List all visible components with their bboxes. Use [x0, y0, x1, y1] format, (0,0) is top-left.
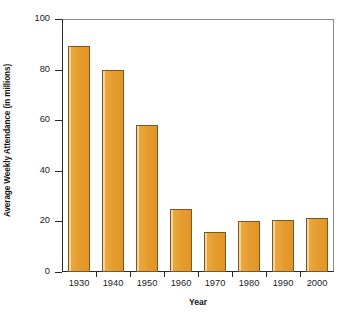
y-axis-tick	[55, 272, 62, 273]
bar	[102, 70, 124, 272]
x-axis-tick	[96, 272, 97, 277]
bar	[306, 218, 328, 272]
x-axis-tick-label: 2000	[297, 278, 337, 288]
y-axis-tick-label: 0	[20, 266, 50, 276]
bar	[170, 209, 192, 272]
y-axis-tick	[55, 120, 62, 121]
bar-chart-figure: Average Weekly Attendance (in millions) …	[0, 0, 349, 318]
x-axis-title: Year	[62, 297, 334, 307]
y-axis-tick-label: 60	[20, 114, 50, 124]
bar	[204, 232, 226, 272]
bar	[136, 125, 158, 272]
x-axis-tick	[266, 272, 267, 277]
x-axis-tick	[164, 272, 165, 277]
x-axis-tick	[198, 272, 199, 277]
y-axis-tick	[55, 221, 62, 222]
y-axis-tick-label: 80	[20, 64, 50, 74]
y-axis-tick-label: 100	[20, 13, 50, 23]
x-axis-tick	[130, 272, 131, 277]
x-axis-tick	[300, 272, 301, 277]
y-axis-title-label: Average Weekly Attendance (in millions)	[4, 63, 13, 216]
y-axis-tick	[55, 70, 62, 71]
bar	[68, 46, 90, 272]
y-axis-tick	[55, 171, 62, 172]
bar	[238, 221, 260, 272]
y-axis-tick-label: 20	[20, 215, 50, 225]
x-axis-tick	[232, 272, 233, 277]
bar	[272, 220, 294, 272]
y-axis-title: Average Weekly Attendance (in millions)	[0, 0, 16, 280]
y-axis-tick-label: 40	[20, 165, 50, 175]
y-axis-tick	[55, 19, 62, 20]
